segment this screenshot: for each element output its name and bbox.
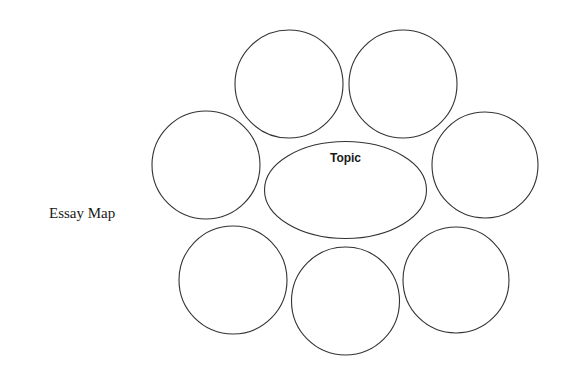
satellite-circle-top-left[interactable] (235, 30, 343, 138)
satellite-circle-middle-right[interactable] (432, 112, 538, 218)
satellite-circle-bottom-middle[interactable] (292, 247, 400, 355)
topic-label: Topic (330, 151, 361, 165)
bubble-map-diagram: Topic (0, 0, 569, 376)
satellite-circle-bottom-right[interactable] (403, 227, 509, 333)
satellite-circle-middle-left[interactable] (152, 111, 260, 219)
satellite-circle-bottom-left[interactable] (179, 226, 287, 334)
satellite-circle-top-right[interactable] (349, 30, 457, 138)
